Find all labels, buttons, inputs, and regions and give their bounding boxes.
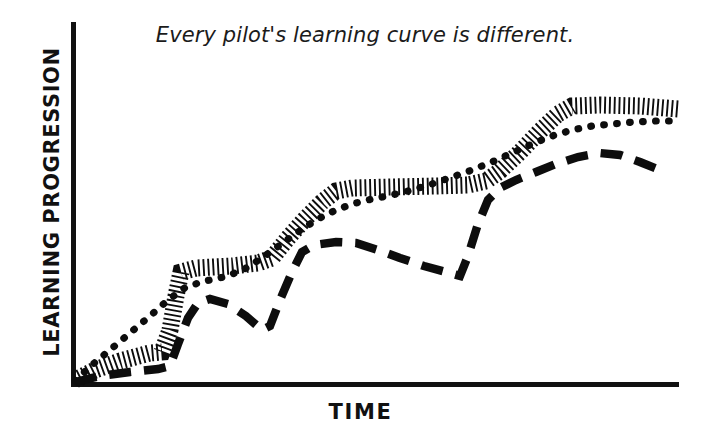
chart-figure: Every pilot's learning curve is differen… <box>0 0 703 438</box>
series-line-pilot-a <box>75 105 678 380</box>
plot-area <box>0 0 703 438</box>
